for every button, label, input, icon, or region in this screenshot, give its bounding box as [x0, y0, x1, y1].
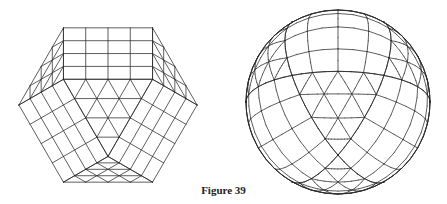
wire-edge — [400, 43, 404, 45]
wire-edge — [287, 58, 289, 67]
wire-edge — [285, 164, 292, 168]
wire-edge — [309, 152, 318, 161]
wire-edge — [276, 90, 280, 102]
wire-edge — [367, 18, 368, 23]
wire-edge — [153, 105, 198, 182]
wire-edge — [301, 89, 302, 92]
wire-edge — [261, 106, 270, 110]
wire-edge — [303, 86, 305, 89]
wire-edge — [400, 51, 404, 57]
wire-edge — [318, 180, 325, 181]
wire-edge — [374, 123, 384, 129]
wire-edge — [420, 74, 421, 78]
wire-edge — [370, 83, 372, 86]
wire-edge — [30, 99, 75, 125]
wire-edge — [295, 31, 307, 35]
wire-edge — [325, 139, 332, 148]
wire-edge — [249, 119, 251, 122]
wire-edge — [371, 95, 376, 106]
wire-edge — [311, 117, 318, 128]
wire-edge — [351, 72, 363, 73]
wire-edge — [351, 161, 359, 168]
wire-edge — [255, 111, 262, 115]
wire-edge — [97, 79, 130, 137]
wire-edge — [365, 117, 374, 122]
wire-edge — [367, 78, 369, 81]
wire-edge — [285, 34, 286, 41]
wire-edge — [396, 34, 403, 41]
wire-edge — [338, 71, 341, 76]
wire-edge — [267, 61, 273, 63]
wire-edge — [338, 49, 353, 50]
wire-edge — [261, 146, 270, 159]
wire-edge — [379, 54, 389, 57]
wire-edge — [358, 117, 365, 128]
wire-edge — [325, 168, 329, 174]
wire-edge — [292, 123, 302, 129]
wire-edge — [419, 78, 420, 82]
wire-edge — [75, 79, 86, 98]
wire-edge — [318, 129, 325, 139]
wire-edge — [300, 95, 305, 106]
wire-edge — [261, 144, 266, 147]
wire-edge — [352, 94, 355, 100]
wire-edge — [418, 82, 420, 86]
wire-edge — [394, 134, 403, 139]
wire-edge — [387, 58, 389, 67]
wire-edge — [384, 75, 393, 77]
wire-edge — [384, 153, 394, 164]
wire-edge — [308, 41, 309, 52]
wire-edge — [410, 111, 415, 125]
wire-edge — [41, 92, 86, 169]
wire-edge — [273, 59, 280, 61]
wire-edge — [381, 75, 384, 84]
wire-edge — [384, 129, 394, 135]
wire-edge — [353, 50, 367, 52]
wire-edge — [311, 112, 314, 118]
wire-edge — [317, 139, 325, 146]
wire-edge — [259, 146, 261, 147]
wire-edge — [312, 73, 316, 80]
wire-edge — [389, 49, 391, 58]
wire-edge — [391, 41, 392, 49]
wire-edge — [261, 63, 267, 66]
wire-edge — [374, 164, 384, 173]
figure-canvas — [0, 0, 447, 204]
wire-edge — [417, 87, 418, 98]
wire-edge — [421, 115, 425, 119]
wire-edge — [277, 71, 278, 74]
wire-edge — [372, 86, 374, 89]
wire-edge — [309, 50, 323, 52]
wire-edge — [317, 100, 320, 106]
wire-edge — [276, 74, 277, 77]
wire-edge — [276, 45, 280, 50]
wire-edge — [321, 94, 324, 100]
wire-edge — [311, 62, 313, 72]
wire-edge — [285, 41, 286, 49]
wire-edge — [415, 111, 422, 115]
wire-edge — [282, 153, 292, 164]
wire-edge — [369, 81, 371, 84]
wire-edge — [403, 125, 410, 139]
wire-edge — [391, 34, 392, 41]
wire-edge — [306, 81, 308, 84]
wire-edge — [253, 87, 259, 91]
wire-edge — [309, 146, 318, 153]
wire-edge — [259, 98, 261, 111]
wire-edge — [371, 182, 376, 183]
wire-edge — [375, 74, 384, 76]
wire-edge — [351, 168, 358, 174]
wire-edge — [367, 52, 379, 55]
wire-edge — [423, 76, 425, 85]
wire-edge — [287, 54, 297, 57]
wire-edge — [292, 159, 300, 164]
wire-edge — [272, 43, 276, 45]
wire-edge — [391, 60, 393, 63]
wire-edge — [411, 68, 414, 74]
wire-edge — [365, 52, 367, 63]
wire-edge — [421, 119, 425, 133]
wire-edge — [394, 66, 396, 69]
wire-edge — [346, 132, 350, 139]
wire-edge — [338, 155, 344, 162]
wire-edge — [309, 15, 323, 18]
